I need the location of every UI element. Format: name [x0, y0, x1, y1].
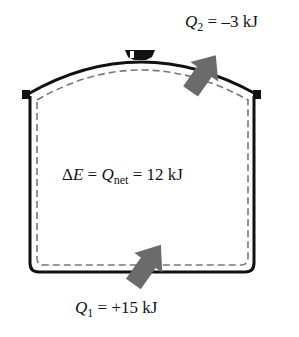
q1-label: Q1 = +15 kJ	[75, 298, 157, 321]
heat-out-arrow-icon	[177, 46, 230, 102]
right-handle	[253, 90, 261, 99]
left-handle	[22, 90, 30, 99]
lid-arc	[28, 62, 256, 94]
q2-label: Q2 = –3 kJ	[185, 12, 258, 35]
net-energy-label: ΔE = Qnet = 12 kJ	[62, 165, 183, 188]
lid-knob-icon	[125, 50, 155, 60]
